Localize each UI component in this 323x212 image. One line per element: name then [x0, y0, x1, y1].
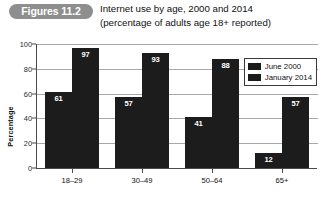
x-tick-label: 30–49: [112, 169, 172, 191]
legend-label: January 2014: [265, 73, 312, 82]
bar-value-label: 88: [212, 61, 239, 70]
y-tick-0: 0: [8, 164, 32, 173]
bar-group: 4188: [185, 44, 239, 168]
bar-value-label: 57: [115, 99, 142, 108]
x-tick-mark: [212, 169, 213, 173]
y-tick-100: 100: [8, 40, 32, 49]
y-tick-mark-0: [32, 168, 36, 169]
bar: 57: [115, 97, 142, 168]
legend-item[interactable]: June 2000: [248, 61, 312, 72]
bar-group: 6197: [45, 44, 99, 168]
y-tick-mark-20: [32, 143, 36, 144]
bar-value-label: 97: [72, 50, 99, 59]
bar-value-label: 93: [142, 55, 169, 64]
bar: 93: [142, 53, 169, 168]
figure-header: Figures 11.2 Internet use by age, 2000 a…: [0, 0, 323, 42]
figure-title-line-2: (percentage of adults age 18+ reported): [100, 16, 320, 30]
x-axis-tick-labels: 18–2930–4950–6465+: [37, 169, 317, 191]
legend-item[interactable]: January 2014: [248, 72, 312, 83]
y-tick-mark-100: [32, 44, 36, 45]
x-tick-label: 65+: [252, 169, 312, 191]
chart-plot-area: Percentage 020406080100 6197579341881257…: [0, 44, 323, 212]
bar-value-label: 57: [282, 99, 309, 108]
y-tick-mark-40: [32, 118, 36, 119]
bar: 61: [45, 92, 72, 168]
figure-number-badge: Figures 11.2: [9, 4, 93, 19]
y-tick-mark-80: [32, 68, 36, 69]
bar-group: 5793: [115, 44, 169, 168]
figure-container: Figures 11.2 Internet use by age, 2000 a…: [0, 0, 323, 212]
x-tick-mark: [72, 169, 73, 173]
y-tick-mark-60: [32, 93, 36, 94]
figure-title: Internet use by age, 2000 and 2014 (perc…: [100, 2, 320, 29]
bar-value-label: 12: [255, 155, 282, 164]
bar: 41: [185, 117, 212, 168]
bar-value-label: 61: [45, 94, 72, 103]
y-axis-tick-labels: 020406080100: [6, 44, 32, 169]
legend-label: June 2000: [265, 62, 301, 71]
legend-swatch-icon: [248, 63, 261, 70]
x-tick-label: 50–64: [182, 169, 242, 191]
y-tick-20: 20: [8, 139, 32, 148]
bar-value-label: 41: [185, 119, 212, 128]
x-tick-label: 18–29: [42, 169, 102, 191]
bar: 57: [282, 97, 309, 168]
figure-title-line-1: Internet use by age, 2000 and 2014: [100, 2, 320, 16]
legend-swatch-icon: [248, 74, 261, 81]
y-tick-60: 60: [8, 89, 32, 98]
y-tick-80: 80: [8, 64, 32, 73]
x-tick-mark: [142, 169, 143, 173]
bar: 97: [72, 48, 99, 168]
bar: 12: [255, 153, 282, 168]
y-tick-40: 40: [8, 114, 32, 123]
chart-legend: June 2000January 2014: [244, 58, 317, 86]
bar: 88: [212, 59, 239, 168]
x-tick-mark: [282, 169, 283, 173]
